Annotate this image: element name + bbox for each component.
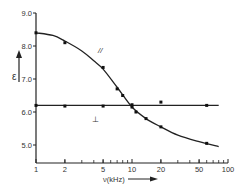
perpendicular-series-label: ⊥: [92, 115, 99, 124]
x-tick-label: 100: [222, 165, 235, 174]
x-axis-arrow-icon: [128, 177, 158, 182]
parallel-data-point: [63, 41, 66, 44]
x-tick-label: 50: [195, 165, 203, 174]
parallel-data-point: [205, 142, 208, 145]
y-axis-label: ε: [12, 71, 17, 82]
parallel-series-label: //: [97, 46, 103, 55]
parallel-data-point: [102, 66, 105, 69]
x-tick-label: 10: [128, 165, 136, 174]
y-tick-label: 9.0: [22, 9, 32, 18]
perpendicular-data-point: [63, 105, 66, 108]
perpendicular-data-point: [205, 104, 208, 107]
perpendicular-data-point: [159, 101, 162, 104]
perpendicular-data-point: [35, 104, 38, 107]
x-tick-label: 1: [34, 165, 38, 174]
parallel-data-point: [116, 87, 119, 90]
y-tick-label: 6.0: [22, 108, 32, 117]
y-tick-label: 8.0: [22, 42, 32, 51]
x-axis-label: ν(kHz): [103, 175, 125, 184]
x-tick-label: 5: [101, 165, 105, 174]
parallel-data-point: [159, 125, 162, 128]
ticks: 5.06.07.08.09.0125102050100: [22, 9, 235, 174]
parallel-fit-curve: [36, 33, 219, 147]
chart-canvas: 5.06.07.08.09.0125102050100 ε ν(kHz) // …: [0, 0, 241, 189]
curves: [36, 33, 219, 147]
parallel-data-point: [145, 117, 148, 120]
y-tick-label: 7.0: [22, 75, 32, 84]
parallel-data-point: [121, 94, 124, 97]
dielectric-chart: 5.06.07.08.09.0125102050100 ε ν(kHz) // …: [0, 0, 241, 189]
perpendicular-data-point: [131, 103, 134, 106]
parallel-data-point: [134, 111, 137, 114]
parallel-data-point: [35, 31, 38, 34]
y-tick-label: 5.0: [22, 141, 32, 150]
perpendicular-data-point: [102, 105, 105, 108]
x-tick-label: 2: [63, 165, 67, 174]
x-tick-label: 20: [157, 165, 165, 174]
data-points: [35, 31, 209, 145]
axes: [36, 13, 228, 163]
